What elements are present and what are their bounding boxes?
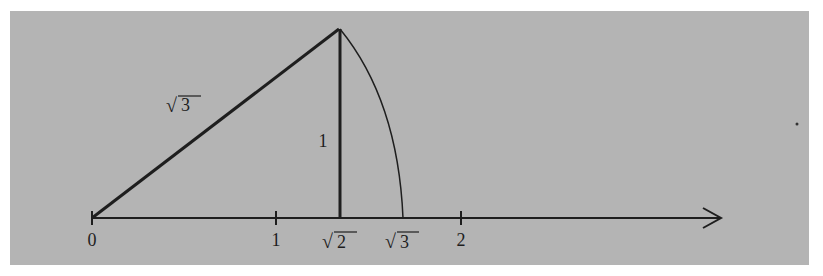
compass-arc xyxy=(340,29,403,218)
svg-text:2: 2 xyxy=(337,232,346,252)
tick-label-sqrt3: √ 3 xyxy=(385,230,419,252)
svg-text:3: 3 xyxy=(400,232,409,252)
tick-label-2: 2 xyxy=(457,230,466,250)
tick-label-1: 1 xyxy=(272,230,281,250)
svg-text:√: √ xyxy=(385,230,396,252)
sqrt-construction-diagram: 0 1 2 √ 2 √ 3 √ 3 1 xyxy=(0,0,823,276)
hypotenuse-label: √ 3 xyxy=(166,94,201,116)
svg-text:√: √ xyxy=(166,94,177,116)
speck xyxy=(796,123,799,126)
tick-label-sqrt2: √ 2 xyxy=(322,230,357,252)
vertical-leg-label: 1 xyxy=(319,131,328,151)
hypotenuse-line xyxy=(92,29,339,218)
svg-text:3: 3 xyxy=(181,95,190,115)
tick-label-0: 0 xyxy=(88,230,97,250)
svg-text:√: √ xyxy=(322,230,333,252)
